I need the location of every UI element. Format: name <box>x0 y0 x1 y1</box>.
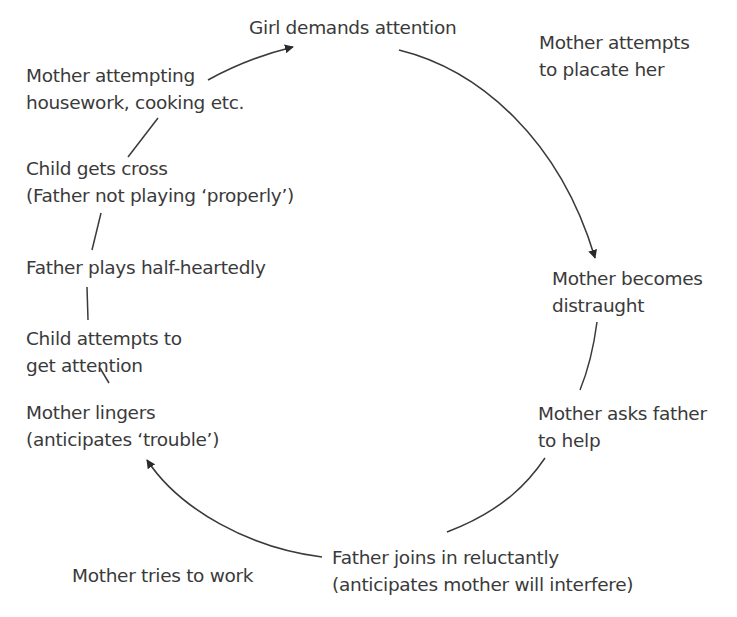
node-text-line: (Father not playing ‘properly’) <box>26 182 294 209</box>
node-text-line: get attention <box>26 352 182 379</box>
node-text-line: Father plays half-heartedly <box>26 254 266 281</box>
cycle-diagram: Girl demands attention Mother attempts t… <box>0 0 737 617</box>
node-text-line: housework, cooking etc. <box>26 89 244 116</box>
node-text-line: to help <box>538 427 707 454</box>
node-mother-becomes-distraught: Mother becomes distraught <box>552 265 703 319</box>
node-mother-lingers: Mother lingers (anticipates ‘trouble’) <box>26 399 219 453</box>
node-text-line: Mother tries to work <box>72 562 253 589</box>
arrow-father-joins-to-lingers <box>147 460 322 557</box>
node-child-attempts-attention: Child attempts to get attention <box>26 325 182 379</box>
node-mother-attempts-to-placate: Mother attempts to placate her <box>539 29 690 83</box>
line-distraught-to-asks <box>580 322 597 390</box>
node-mother-tries-to-work: Mother tries to work <box>72 562 253 589</box>
node-mother-attempting-housework: Mother attempting housework, cooking etc… <box>26 62 244 116</box>
node-girl-demands-attention: Girl demands attention <box>249 14 456 41</box>
node-text-line: distraught <box>552 292 703 319</box>
node-text-line: (anticipates mother will interfere) <box>332 571 633 598</box>
node-text-line: Father joins in reluctantly <box>332 544 633 571</box>
node-child-gets-cross: Child gets cross (Father not playing ‘pr… <box>26 155 294 209</box>
node-mother-asks-father: Mother asks father to help <box>538 400 707 454</box>
node-text-line: Mother becomes <box>552 265 703 292</box>
node-text-line: Mother attempts <box>539 29 690 56</box>
node-text-line: Child attempts to <box>26 325 182 352</box>
line-housework-to-child-cross <box>128 118 158 157</box>
node-text-line: to placate her <box>539 56 690 83</box>
line-asks-to-father-joins <box>447 458 545 532</box>
node-father-joins-reluctantly: Father joins in reluctantly (anticipates… <box>332 544 633 598</box>
node-text-line: Mother attempting <box>26 62 244 89</box>
node-text-line: Mother asks father <box>538 400 707 427</box>
node-text-line: Girl demands attention <box>249 14 456 41</box>
node-father-plays-half-heartedly: Father plays half-heartedly <box>26 254 266 281</box>
line-child-cross-to-father-plays <box>92 213 101 250</box>
node-text-line: (anticipates ‘trouble’) <box>26 426 219 453</box>
node-text-line: Child gets cross <box>26 155 294 182</box>
line-father-plays-to-child-attempts <box>87 287 88 320</box>
node-text-line: Mother lingers <box>26 399 219 426</box>
